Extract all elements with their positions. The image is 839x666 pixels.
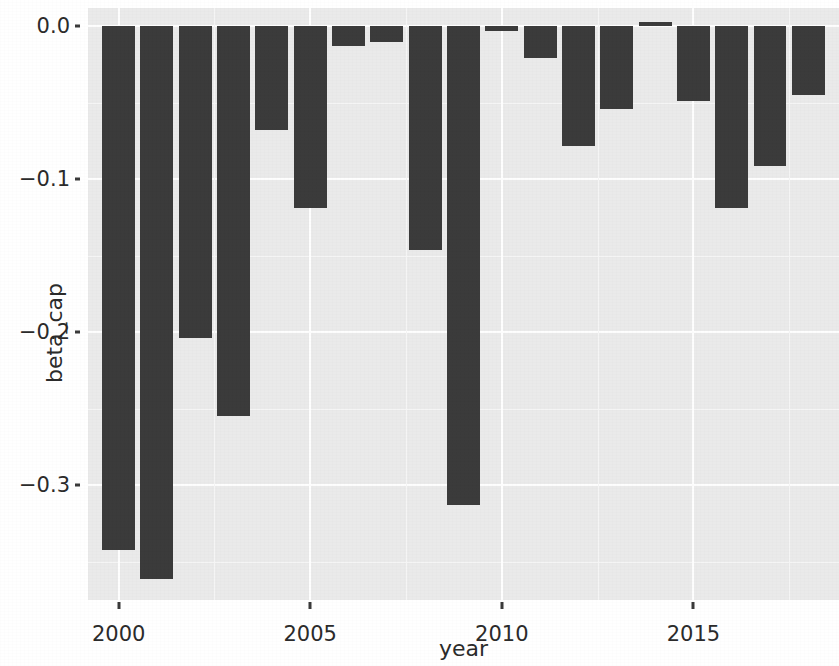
bar xyxy=(102,26,135,549)
bar xyxy=(562,26,595,145)
plot-panel xyxy=(88,8,839,600)
x-tick-mark xyxy=(692,602,695,609)
y-axis-title: beta_cap xyxy=(42,283,67,383)
y-tick-mark xyxy=(75,484,80,487)
x-tick-mark xyxy=(309,602,312,609)
y-tick-label: 0.0 xyxy=(37,14,70,38)
bar xyxy=(715,26,748,208)
gridline-minor-vertical xyxy=(598,8,599,600)
bar xyxy=(370,26,403,41)
y-tick-mark xyxy=(75,331,80,334)
gridline-minor-vertical xyxy=(214,8,215,600)
y-tick-label: −0.1 xyxy=(19,167,70,191)
bar xyxy=(179,26,212,338)
bar xyxy=(332,26,365,46)
bar xyxy=(294,26,327,208)
bar xyxy=(600,26,633,109)
y-tick-mark xyxy=(75,178,80,181)
bar xyxy=(255,26,288,130)
x-axis-title: year xyxy=(88,636,839,661)
bar xyxy=(639,22,672,27)
x-tick-mark xyxy=(500,602,503,609)
x-tick-mark xyxy=(117,602,120,609)
bar xyxy=(524,26,557,58)
bar xyxy=(677,26,710,101)
bar xyxy=(447,26,480,505)
plot-panel-inner xyxy=(88,8,839,600)
gridline-minor-horizontal xyxy=(88,562,839,563)
y-tick-label: −0.3 xyxy=(19,473,70,497)
gridline-minor-vertical xyxy=(406,8,407,600)
x-axis: 2000200520102015 xyxy=(88,600,839,634)
bar xyxy=(754,26,787,165)
bar xyxy=(485,26,518,31)
gridline-major-vertical xyxy=(501,8,503,600)
bar xyxy=(140,26,173,578)
gridline-minor-vertical xyxy=(789,8,790,600)
bar xyxy=(217,26,250,416)
y-tick-mark xyxy=(75,25,80,28)
bar xyxy=(792,26,825,95)
chart-figure: 各类企业的生产率水平与技术创新的三个主要特征之一是考察了其中的关系，发现在样本内… xyxy=(0,0,839,666)
bar xyxy=(409,26,442,249)
